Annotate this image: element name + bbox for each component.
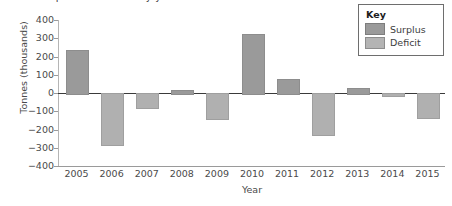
legend-swatch-icon-surplus xyxy=(365,23,385,35)
bar-2015[interactable] xyxy=(417,93,440,119)
bar-2010[interactable] xyxy=(242,34,265,95)
y-tick-mark xyxy=(54,38,58,39)
y-tick-label: 400 xyxy=(20,15,54,25)
x-tick-label-2007: 2007 xyxy=(127,168,167,179)
x-tick-label-2015: 2015 xyxy=(407,168,447,179)
x-tick-label-2006: 2006 xyxy=(92,168,132,179)
y-tick-label: 300 xyxy=(20,34,54,44)
bar-2007[interactable] xyxy=(136,93,159,109)
y-tick-mark xyxy=(54,57,58,58)
legend-title: Key xyxy=(366,9,437,20)
bar-2012[interactable] xyxy=(312,93,335,136)
y-tick-label: −300 xyxy=(20,143,54,153)
x-axis-title: Year xyxy=(59,184,445,195)
bar-2006[interactable] xyxy=(101,93,124,146)
bar-2014[interactable] xyxy=(382,93,405,97)
bar-2009[interactable] xyxy=(206,93,229,120)
y-tick-mark xyxy=(54,166,58,167)
legend-box: Key SurplusDeficit xyxy=(358,4,444,56)
x-tick-label-2014: 2014 xyxy=(372,168,412,179)
legend-label: Surplus xyxy=(390,24,426,35)
bar-2008[interactable] xyxy=(171,90,194,95)
y-tick-mark xyxy=(54,93,58,94)
x-tick-label-2010: 2010 xyxy=(232,168,272,179)
x-tick-label-2009: 2009 xyxy=(197,168,237,179)
x-tick-label-2013: 2013 xyxy=(337,168,377,179)
y-tick-label: −100 xyxy=(20,107,54,117)
bar-2005[interactable] xyxy=(66,50,89,95)
legend-item-surplus[interactable]: Surplus xyxy=(365,23,437,35)
y-tick-mark xyxy=(54,75,58,76)
x-tick-label-2008: 2008 xyxy=(162,168,202,179)
legend-swatch-icon-deficit xyxy=(365,37,385,49)
legend-label: Deficit xyxy=(390,37,421,48)
y-tick-label: 0 xyxy=(20,88,54,98)
bar-2013[interactable] xyxy=(347,88,370,95)
legend-items: SurplusDeficit xyxy=(365,23,437,49)
x-tick-label-2005: 2005 xyxy=(57,168,97,179)
y-tick-label: 200 xyxy=(20,52,54,62)
y-tick-label: −400 xyxy=(20,161,54,171)
x-tick-label-2012: 2012 xyxy=(302,168,342,179)
y-tick-label: −200 xyxy=(20,125,54,135)
x-tick-label-2011: 2011 xyxy=(267,168,307,179)
y-tick-mark xyxy=(54,130,58,131)
bar-2011[interactable] xyxy=(277,79,300,95)
y-axis-tick-labels: 4003002001000−100−200−300−400 xyxy=(14,0,54,206)
y-tick-mark xyxy=(54,20,58,21)
legend-item-deficit[interactable]: Deficit xyxy=(365,37,437,49)
y-tick-mark xyxy=(54,111,58,112)
bar-chart: Tonnes (thousands) 4003002001000−100−200… xyxy=(0,0,452,206)
y-tick-mark xyxy=(54,148,58,149)
x-axis-line xyxy=(54,166,445,167)
x-axis-tick-labels: 2005200620072008200920102011201220132014… xyxy=(59,168,445,182)
y-tick-label: 100 xyxy=(20,70,54,80)
